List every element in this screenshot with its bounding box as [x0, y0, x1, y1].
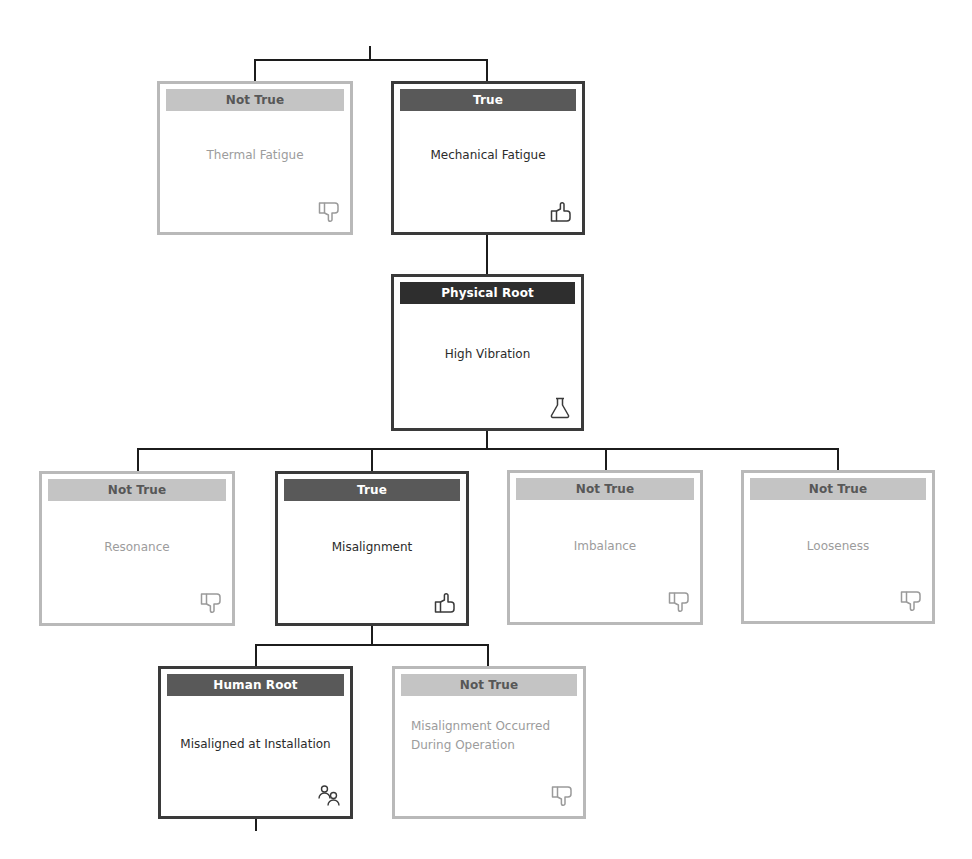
connector-level4-horizontal	[255, 644, 489, 646]
node-label: Looseness	[752, 539, 924, 553]
node-label: Misaligned at Installation	[169, 737, 342, 751]
status-badge: Not True	[750, 478, 926, 500]
node-label: Imbalance	[518, 539, 692, 553]
connector-looseness	[837, 448, 839, 471]
connector-thermal-fatigue	[254, 59, 256, 82]
thumbs-down-icon[interactable]	[899, 589, 923, 613]
connector-level1-horizontal	[254, 59, 488, 61]
connector-vibration-down	[486, 430, 488, 450]
node-resonance[interactable]: Not True Resonance	[39, 471, 235, 626]
flask-icon[interactable]	[548, 396, 572, 420]
node-mechanical-fatigue[interactable]: True Mechanical Fatigue	[391, 81, 585, 235]
thumbs-down-icon[interactable]	[199, 591, 223, 615]
connector-operation	[487, 644, 489, 667]
node-looseness[interactable]: Not True Looseness	[741, 470, 935, 624]
node-label: Thermal Fatigue	[168, 148, 342, 162]
thumbs-up-icon[interactable]	[549, 200, 573, 224]
node-imbalance[interactable]: Not True Imbalance	[507, 470, 703, 625]
thumbs-up-icon[interactable]	[433, 591, 457, 615]
node-label: Mechanical Fatigue	[402, 148, 574, 162]
connector-misalignment-down	[371, 625, 373, 645]
connector-mechanical-fatigue	[486, 59, 488, 83]
connector-level3-horizontal	[137, 448, 839, 450]
status-badge: Not True	[166, 89, 344, 111]
node-misalignment[interactable]: True Misalignment	[275, 471, 469, 626]
connector-mechanical-to-vibration	[486, 234, 488, 275]
status-badge: True	[400, 89, 576, 111]
node-misaligned-at-installation[interactable]: Human Root Misaligned at Installation	[158, 666, 353, 819]
status-badge: True	[284, 479, 460, 501]
connector-misalignment	[371, 448, 373, 472]
status-badge: Human Root	[167, 674, 344, 696]
node-thermal-fatigue[interactable]: Not True Thermal Fatigue	[157, 81, 353, 235]
thumbs-down-icon[interactable]	[550, 784, 574, 808]
thumbs-down-icon[interactable]	[667, 590, 691, 614]
node-misalignment-during-operation[interactable]: Not True Misalignment Occurred During Op…	[392, 666, 586, 819]
people-icon[interactable]	[317, 784, 341, 808]
node-label: High Vibration	[402, 347, 573, 361]
connector-bottom-stub	[255, 818, 257, 831]
connector-imbalance	[605, 448, 607, 471]
status-badge: Not True	[516, 478, 694, 500]
node-high-vibration[interactable]: Physical Root High Vibration	[391, 274, 584, 431]
connector-installation	[255, 644, 257, 667]
connector-resonance	[137, 448, 139, 472]
node-label: Resonance	[50, 540, 224, 554]
status-badge: Not True	[401, 674, 577, 696]
status-badge: Not True	[48, 479, 226, 501]
node-label: Misalignment Occurred During Operation	[411, 717, 553, 755]
node-label: Misalignment	[286, 540, 458, 554]
status-badge: Physical Root	[400, 282, 575, 304]
thumbs-down-icon[interactable]	[317, 200, 341, 224]
